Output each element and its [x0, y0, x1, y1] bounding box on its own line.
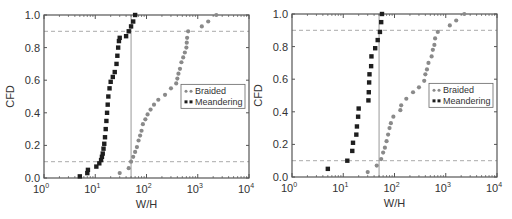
data-point [399, 103, 403, 107]
data-point [163, 93, 167, 97]
x-tick-label: 102 [135, 182, 151, 195]
y-tick-label: 0.4 [273, 106, 288, 118]
data-point [367, 80, 371, 84]
data-point [356, 106, 360, 110]
data-point [366, 170, 370, 174]
data-point [175, 76, 179, 80]
x-tick-label: 103 [435, 181, 451, 194]
data-point [143, 117, 147, 121]
data-point [355, 124, 359, 128]
data-point [104, 127, 108, 131]
data-point [404, 97, 408, 101]
series-meandering [326, 12, 385, 171]
data-point [113, 70, 117, 74]
data-point [200, 24, 204, 28]
data-point [389, 121, 393, 125]
data-point [425, 67, 429, 71]
data-point [367, 72, 371, 76]
legend-meandering-label: Meandering [443, 96, 491, 106]
legend-meandering-marker [433, 99, 436, 102]
data-point [127, 166, 131, 170]
legend-braided-label: Braided [443, 85, 474, 95]
data-point [135, 145, 139, 149]
data-point [129, 24, 133, 28]
data-point [375, 163, 379, 167]
data-point [101, 151, 105, 155]
data-point [105, 111, 109, 115]
data-point [326, 167, 330, 171]
y-tick-label: 0.6 [25, 74, 40, 86]
data-point [178, 67, 182, 71]
figure: 0.00.20.40.60.81.0100101102103104W/HCFDB… [0, 0, 512, 219]
data-point [379, 20, 383, 24]
data-point [115, 54, 119, 58]
data-point [379, 157, 383, 161]
data-point [448, 23, 452, 27]
data-point [179, 60, 183, 64]
y-tick-label: 0.2 [273, 138, 288, 150]
y-tick-label: 0.8 [25, 42, 40, 54]
data-point [387, 126, 391, 130]
data-point [184, 46, 188, 50]
y-tick-label: 0.6 [273, 73, 288, 85]
data-point [169, 86, 173, 90]
data-point [152, 103, 156, 107]
data-point [131, 155, 135, 159]
data-point [345, 159, 349, 163]
data-point [378, 30, 382, 34]
data-point [373, 46, 377, 50]
data-point [114, 62, 118, 66]
data-point [136, 138, 140, 142]
y-tick-label: 0.2 [25, 139, 40, 151]
data-point [101, 146, 105, 150]
data-point [104, 119, 108, 123]
data-point [186, 29, 190, 33]
x-tick-label: 104 [486, 181, 502, 194]
data-point [133, 13, 137, 17]
data-point [106, 94, 110, 98]
x-tick-label: 101 [332, 181, 348, 194]
data-point [127, 29, 131, 33]
x-tick-label: 102 [383, 181, 399, 194]
data-point [417, 85, 421, 89]
data-point [102, 142, 106, 146]
x-tick-label: 101 [84, 182, 100, 195]
data-point [426, 61, 430, 65]
data-point [411, 90, 415, 94]
legend: BraidedMeandering [181, 84, 245, 108]
data-point [433, 36, 437, 40]
x-tick-label: 103 [187, 182, 203, 195]
data-point [422, 79, 426, 83]
data-point [351, 141, 355, 145]
data-point [391, 115, 395, 119]
data-point [214, 13, 218, 17]
y-tick-label: 0.4 [25, 107, 40, 119]
y-axis-label: CFD [4, 85, 16, 108]
data-point [118, 171, 122, 175]
series-meandering [78, 13, 138, 179]
y-axis-label: CFD [252, 84, 264, 107]
data-point [462, 12, 466, 16]
data-point [381, 150, 385, 154]
data-point [369, 64, 373, 68]
data-point [375, 38, 379, 42]
data-point [367, 90, 371, 94]
data-point [133, 150, 137, 154]
data-point [383, 146, 387, 150]
data-point [356, 114, 360, 118]
data-point [111, 75, 115, 79]
data-point [176, 72, 180, 76]
data-point [206, 19, 210, 23]
data-point [139, 129, 143, 133]
legend-braided-marker [433, 89, 436, 92]
x-tick-label: 100 [33, 182, 49, 195]
legend-meandering-marker [185, 100, 188, 103]
x-tick-label: 104 [238, 182, 254, 195]
data-point [129, 160, 133, 164]
legend-meandering-label: Meandering [195, 97, 243, 107]
y-tick-label: 1.0 [25, 9, 40, 21]
data-point [454, 18, 458, 22]
data-point [78, 174, 82, 178]
data-point [118, 36, 122, 40]
data-point [369, 54, 373, 58]
